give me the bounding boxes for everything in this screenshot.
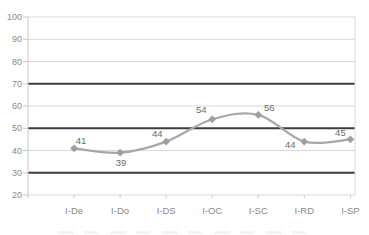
chart-canvas: 2030405060708090100I-DeI-DoI-DSI-OCI-SCI…: [0, 0, 369, 235]
y-axis-label: 30: [12, 168, 22, 178]
line-chart: 2030405060708090100I-DeI-DoI-DSI-OCI-SCI…: [0, 0, 369, 235]
data-label: 45: [335, 127, 346, 138]
x-axis-label: I-De: [65, 205, 83, 216]
data-label: 44: [285, 139, 296, 150]
x-axis-label: I-OC: [202, 205, 222, 216]
y-axis-label: 70: [12, 79, 22, 89]
x-axis-label: I-DS: [157, 205, 176, 216]
y-axis-label: 80: [12, 57, 22, 67]
x-axis-label: I-RD: [295, 205, 315, 216]
chart-background: [0, 0, 369, 235]
data-label: 44: [152, 128, 163, 139]
data-label: 41: [76, 135, 87, 146]
x-axis-label: I-Do: [111, 205, 129, 216]
data-label: 54: [196, 104, 207, 115]
x-axis-label: I-SP: [341, 205, 359, 216]
x-axis-label: I-SC: [249, 205, 268, 216]
data-label: 56: [264, 102, 275, 113]
y-axis-label: 20: [12, 190, 22, 200]
y-axis-label: 100: [7, 12, 22, 22]
data-label: 39: [116, 157, 127, 168]
y-axis-label: 40: [12, 146, 22, 156]
y-axis-label: 90: [12, 34, 22, 44]
y-axis-label: 50: [12, 123, 22, 133]
y-axis-label: 60: [12, 101, 22, 111]
